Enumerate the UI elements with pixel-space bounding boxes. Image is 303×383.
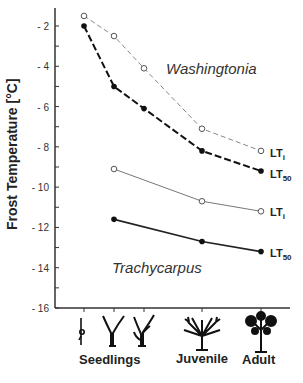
x-label-juvenile: Juvenile [176,351,228,366]
y-tick-label: - 2 [37,21,49,32]
data-point [111,166,117,172]
y-axis-label: Frost Temperature [°C] [4,78,20,230]
y-tick-label: - 8 [37,142,49,153]
y-tick-label: - 14 [32,263,50,274]
data-point [199,148,205,154]
x-label-seedlings: Seedlings [79,352,140,367]
series-trachycarpus-lt50 [111,217,264,255]
frost-temperature-chart: - 2- 4- 6- 8- 10- 12- 14- 16 [0,0,303,383]
data-point [199,239,205,245]
data-point [141,66,147,72]
data-point [199,198,205,204]
legend-trachycarpus-lti: LTi [270,206,285,221]
data-point [81,23,87,29]
y-tick-label: - 16 [32,303,50,314]
data-point [111,33,117,39]
data-point [258,249,264,255]
y-tick-label: - 10 [32,182,50,193]
stage-icons [79,312,276,352]
species-label-trachycarpus: Trachycarpus [112,259,202,276]
adult-palm-tree-icon [246,312,276,352]
seedling-sprout-icon [79,318,84,345]
data-point [199,126,205,132]
data-point [258,148,264,154]
data-point [258,168,264,174]
data-point [111,217,117,223]
legend-washingtonia-lti: LTi [270,147,285,162]
data-point [141,106,147,112]
y-tick-label: - 4 [37,61,49,72]
y-tick-label: - 6 [37,102,49,113]
x-label-adult: Adult [242,352,275,367]
legend-trachycarpus-lt50: LT50 [270,247,292,262]
juvenile-palm-icon [184,317,220,350]
series-washingtonia-lti [81,13,264,154]
series-trachycarpus-lti [111,166,264,214]
seedling-fan-icon [134,315,154,346]
seedling-two-leaf-icon [103,316,124,346]
y-tick-label: - 12 [32,222,50,233]
data-point [111,84,117,90]
species-label-washingtonia: Washingtonia [166,60,257,77]
legend-washingtonia-lt50: LT50 [270,168,292,183]
series-layer [81,13,264,254]
data-point [258,209,264,215]
data-point [81,13,87,19]
